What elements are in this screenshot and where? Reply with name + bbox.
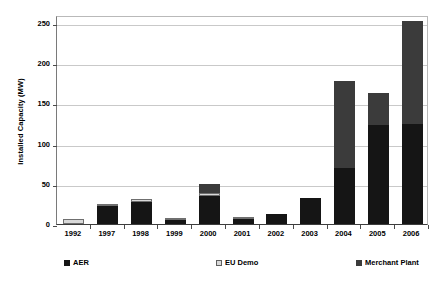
x-tick-label: 1999	[157, 229, 191, 239]
bar-group	[402, 21, 423, 224]
bar-segment	[368, 125, 389, 224]
chart-legend: AEREU DemoMerchant Plant	[56, 259, 428, 271]
bar-chart: Installed Capacity (MW) 050100150200250 …	[0, 0, 442, 282]
bar-segment	[266, 214, 287, 224]
bar-segment	[334, 168, 355, 224]
y-tick-label: 50	[10, 181, 50, 189]
x-tick-label: 1992	[56, 229, 90, 239]
bar-group	[131, 199, 152, 224]
x-tick-label: 2003	[293, 229, 327, 239]
x-tick-label: 2004	[327, 229, 361, 239]
y-tick-label: 250	[10, 20, 50, 28]
bar-segment	[334, 81, 355, 168]
bar-group	[266, 214, 287, 224]
bar-segment	[300, 198, 321, 224]
legend-swatch-icon	[64, 260, 70, 266]
legend-swatch-icon	[216, 260, 222, 266]
bar-group	[368, 93, 389, 224]
bar-segment	[165, 220, 186, 224]
x-tick-label: 2002	[259, 229, 293, 239]
bar-segment	[131, 202, 152, 225]
legend-entry: AER	[64, 259, 89, 267]
bar-segment	[199, 184, 220, 194]
legend-label: AER	[73, 259, 89, 267]
bar-segment	[402, 124, 423, 224]
legend-swatch-icon	[356, 260, 362, 266]
bar-group	[63, 219, 84, 224]
y-axis-title: Installed Capacity (MW)	[16, 52, 25, 192]
y-tick-label: 100	[10, 141, 50, 149]
x-tick-label: 2006	[394, 229, 428, 239]
y-tick-mark	[53, 226, 57, 227]
bar-segment	[97, 206, 118, 224]
y-tick-label: 150	[10, 100, 50, 108]
legend-entry: EU Demo	[216, 259, 258, 267]
bar-segment	[402, 21, 423, 123]
bar-group	[334, 81, 355, 224]
bar-segment	[199, 196, 220, 224]
x-tick-label: 1998	[124, 229, 158, 239]
bar-group	[300, 198, 321, 224]
y-tick-label: 200	[10, 60, 50, 68]
y-tick-label: 0	[10, 221, 50, 229]
legend-label: Merchant Plant	[365, 259, 419, 267]
x-tick-label: 2005	[360, 229, 394, 239]
x-tick-label: 1997	[90, 229, 124, 239]
x-tick-mark	[428, 225, 429, 229]
bar-segment	[368, 93, 389, 125]
bar-group	[165, 218, 186, 224]
bar-group	[97, 204, 118, 224]
bar-group	[233, 217, 254, 224]
legend-entry: Merchant Plant	[356, 259, 419, 267]
legend-label: EU Demo	[225, 259, 258, 267]
x-axis-tick-labels: 1992199719981999200020012002200320042005…	[56, 229, 428, 243]
bar-group	[199, 184, 220, 224]
plot-area	[56, 16, 428, 225]
bars-layer	[57, 17, 427, 224]
x-tick-label: 2001	[225, 229, 259, 239]
bar-segment	[63, 219, 84, 224]
x-tick-label: 2000	[191, 229, 225, 239]
bar-segment	[233, 219, 254, 224]
